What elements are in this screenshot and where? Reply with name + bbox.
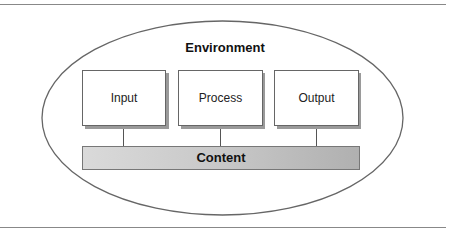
environment-label: Environment: [170, 40, 280, 55]
diagram-canvas: [0, 0, 458, 237]
output-label: Output: [274, 91, 359, 105]
process-label: Process: [178, 91, 263, 105]
content-label: Content: [82, 150, 360, 165]
input-label: Input: [82, 91, 166, 105]
